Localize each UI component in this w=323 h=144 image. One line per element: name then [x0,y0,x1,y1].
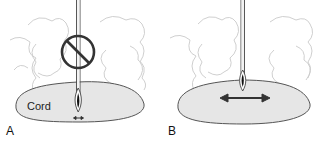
panel-b: B [162,0,323,144]
panel-letter-b: B [168,124,176,138]
cord-label: Cord [27,100,51,112]
figure-caption-partial [0,137,323,144]
panel-letter-a: A [6,124,14,138]
panel-a-illustration [0,0,161,144]
panel-a: Cord A [0,0,161,144]
panel-b-illustration [162,0,323,144]
